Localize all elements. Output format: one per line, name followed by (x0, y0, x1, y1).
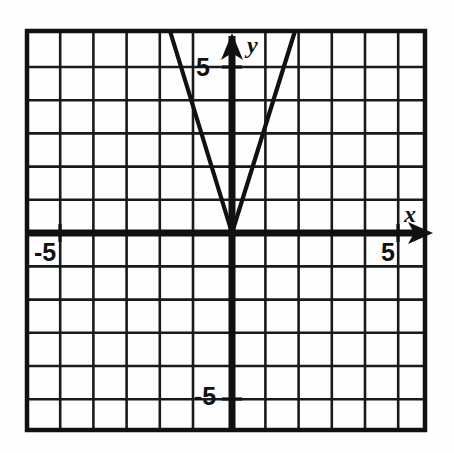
y-axis-name-label: y (247, 33, 258, 57)
y-axis-positive-tick-label: 5 (196, 55, 210, 80)
x-axis-negative-tick-label: -5 (34, 240, 56, 265)
y-axis-negative-tick-label: -5 (194, 384, 216, 409)
x-axis-positive-tick-label: 5 (381, 240, 395, 265)
graph-figure: 5 -5 5 -5 y x (0, 0, 454, 453)
coordinate-plane-svg (0, 0, 454, 453)
x-axis-name-label: x (404, 202, 416, 226)
